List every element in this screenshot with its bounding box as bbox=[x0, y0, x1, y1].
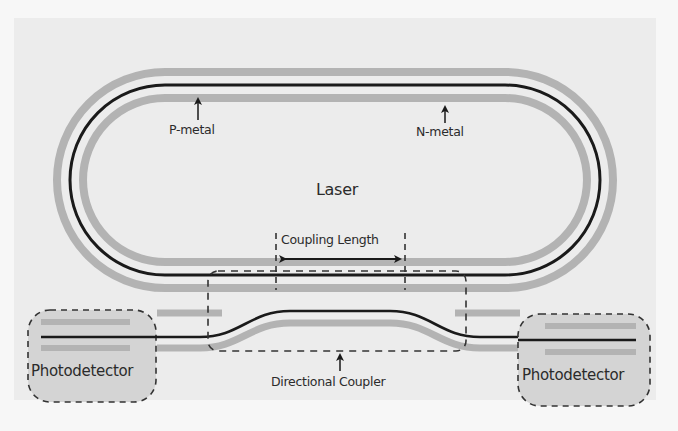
photodetector-left bbox=[28, 310, 157, 402]
p-metal-label: P-metal bbox=[169, 122, 215, 137]
photodetector-left-label: Photodetector bbox=[31, 362, 133, 380]
directional-coupler-label: Directional Coupler bbox=[271, 374, 385, 389]
n-metal-label: N-metal bbox=[416, 124, 464, 139]
photodetector-right bbox=[518, 314, 650, 406]
photodetector-right-label: Photodetector bbox=[522, 366, 624, 384]
coupling-length-label: Coupling Length bbox=[281, 232, 379, 247]
laser-label: Laser bbox=[316, 180, 358, 199]
